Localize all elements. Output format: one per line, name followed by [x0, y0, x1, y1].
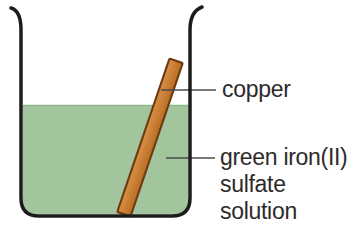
solution-label-line-3: solution [220, 198, 297, 224]
solution-label-line-2: sulfate [220, 171, 286, 197]
chemistry-diagram: copper green iron(II) sulfate solution [0, 0, 353, 234]
copper-label: copper [222, 76, 291, 102]
solution-label-line-1: green iron(II) [220, 144, 347, 170]
beaker-diagram-svg: copper green iron(II) sulfate solution [0, 0, 353, 234]
